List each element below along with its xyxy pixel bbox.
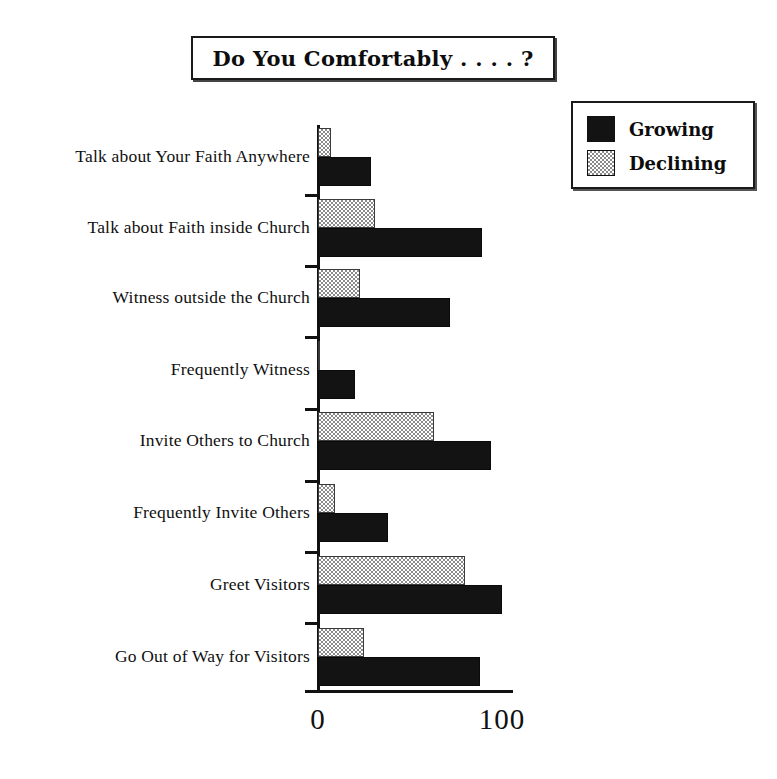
category-label: Greet Visitors [210,574,310,595]
bar-growing [318,513,388,542]
value-axis-line [305,690,513,693]
bar-declining [318,128,331,157]
bar-growing [318,585,502,614]
bar-declining [318,628,364,657]
bar-growing [318,298,450,327]
bar-declining [318,412,434,441]
category-label: Frequently Witness [171,359,310,380]
x-axis-tick-label: 100 [479,703,526,736]
x-axis-tick-label: 0 [310,703,326,736]
category-labels: Talk about Your Faith AnywhereTalk about… [0,0,310,779]
bar-declining [318,269,360,298]
bar-declining [318,556,465,585]
bar-growing [318,157,371,186]
bar-growing [318,370,355,399]
category-label: Invite Others to Church [140,430,310,451]
bar-growing [318,657,480,686]
category-label: Go Out of Way for Visitors [115,646,310,667]
bar-growing [318,228,482,257]
category-label: Witness outside the Church [113,287,310,308]
bar-chart-plot-area: Talk about Your Faith AnywhereTalk about… [0,0,777,779]
category-label: Talk about Faith inside Church [87,217,310,238]
category-label: Frequently Invite Others [133,502,310,523]
bar-growing [318,441,491,470]
bar-declining [318,484,335,513]
category-label: Talk about Your Faith Anywhere [75,146,310,167]
bar-declining [318,341,320,370]
bar-declining [318,199,375,228]
